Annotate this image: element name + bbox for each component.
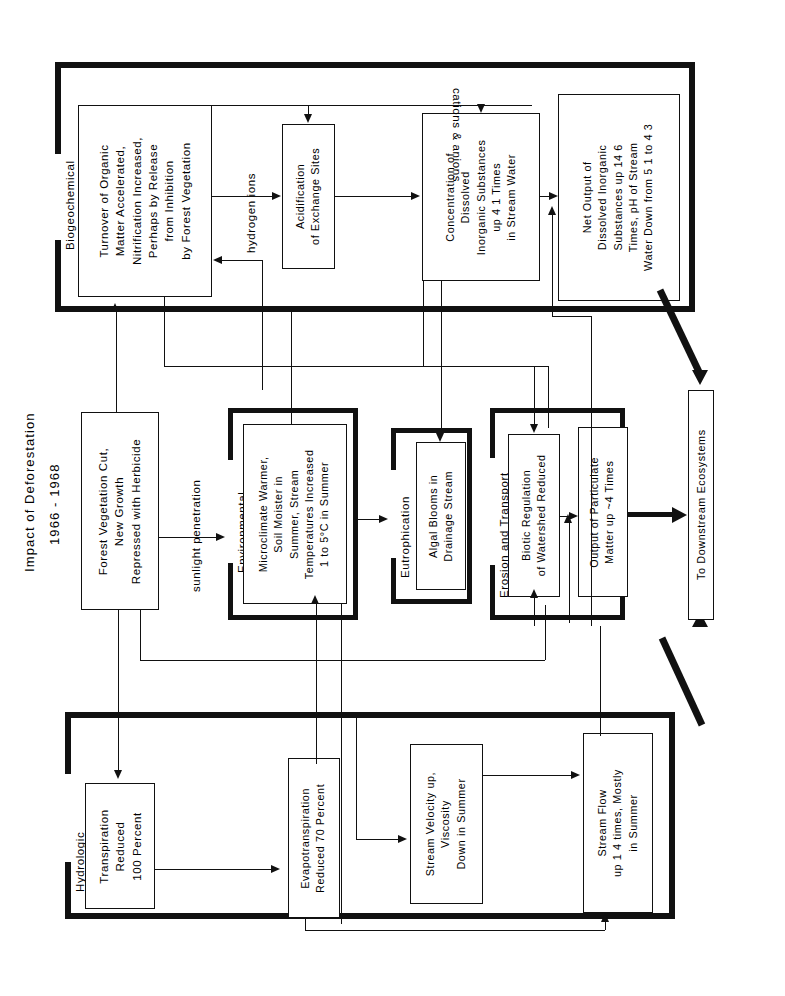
band-eutrophication-edge-left-upper <box>391 428 396 470</box>
box-transpiration: Transpiration Reduced 100 Percent <box>85 783 155 909</box>
arrow-lower-bus-to-biotic <box>530 424 538 433</box>
line-through-microclimate-right <box>341 604 342 924</box>
box-algal-blooms: Algal Blooms in Drainage Stream <box>416 442 466 590</box>
band-hydrologic-edge-top <box>65 712 675 718</box>
line-into-microclimate-left <box>316 604 317 764</box>
arrow-hydrogen-ions <box>272 192 281 200</box>
line-evapo-loop <box>305 930 605 931</box>
band-eutrophication-edge-top <box>391 428 472 433</box>
band-environmental-edge-right <box>353 408 358 620</box>
edge-label-sunlight-penetration: sunlight penetration <box>190 480 202 592</box>
band-eutrophication-edge-right <box>467 428 472 604</box>
band-eutrophication-edge-left-lower <box>391 558 396 604</box>
line-lower-bus-to-biotic <box>534 366 535 424</box>
band-biogeochemical-edge-left-upper <box>55 62 61 154</box>
band-hydrologic-edge-bottom <box>65 913 675 919</box>
box-output-particulate: Output of Particulate Matter up ~4 Times <box>578 427 628 597</box>
box-evapotranspiration: Evapotranspiration Reduced 70 Percent <box>288 758 340 918</box>
line-sunlight-penetration <box>159 537 216 538</box>
band-hydrologic-edge-left-upper <box>65 712 71 774</box>
line-forest-to-transpiration <box>118 610 119 770</box>
arrow-upriser-to-particulate <box>564 514 572 523</box>
line-forest-second-bus <box>140 660 545 661</box>
band-hydrologic-edge-left-lower <box>65 862 71 919</box>
box-biotic-regulation-text: Biotic Regulation of Watershed Reduced <box>509 435 559 596</box>
band-label-biogeochemical: Biogeochemical <box>64 160 76 250</box>
diagram-canvas: Impact of Deforestation 1966 - 1968 Biog… <box>0 0 785 996</box>
box-acidification: Acidification of Exchange Sites <box>282 124 335 269</box>
arrow-particulate-to-downstream <box>672 507 687 523</box>
line-hydrogen-ions <box>212 196 272 197</box>
band-biogeochemical-edge-bottom <box>55 306 695 312</box>
arrow-forest-to-turnover <box>111 303 119 312</box>
line-riser-to-net-output-elbow <box>552 316 591 317</box>
line-stream-flow-riser <box>600 626 601 736</box>
line-lower-bus-right-drop <box>548 366 549 428</box>
arrow-stream-velocity-to-stream-flow <box>571 771 580 779</box>
arrow-evapo-loop-to-stream-flow <box>601 913 609 922</box>
line-environmental-to-eutrophication <box>358 519 379 520</box>
line-feedback-into-turnover <box>222 260 262 261</box>
box-stream-velocity-text: Stream Velocity up, Viscosity Down in Su… <box>411 745 482 903</box>
box-acidification-text: Acidification of Exchange Sites <box>283 125 334 268</box>
box-microclimate-text: Microclimate Warmer, Soil Moister in Sum… <box>244 425 346 603</box>
line-microclimate-up <box>291 312 292 424</box>
band-environmental-edge-top <box>228 408 358 413</box>
arrow-feedback-into-turnover <box>213 256 222 264</box>
line-concentration-left-drop <box>423 281 424 366</box>
box-turnover-text: Turnover of Organic Matter Accelerated, … <box>79 106 211 296</box>
thick-connector-hydrologic-to-downstream <box>660 620 785 760</box>
line-feedback-turnover-riser <box>262 260 263 390</box>
band-biogeochemical-edge-left-lower <box>55 240 61 312</box>
box-forest-vegetation-cut: Forest Vegetation Cut, New Growth Repres… <box>81 412 159 610</box>
band-erosion-edge-left-upper <box>490 408 495 458</box>
line-forest-second-bus-riser <box>545 605 546 660</box>
arrow-acidification-to-concentration <box>411 192 420 200</box>
arrow-concentration-to-algal <box>436 433 444 442</box>
band-eutrophication-edge-bottom <box>391 599 472 604</box>
arrow-into-microclimate-left <box>311 595 319 604</box>
line-acidification-to-concentration <box>335 196 411 197</box>
line-concentration-to-net-output <box>540 196 549 197</box>
thick-connector-biogeochemical-to-downstream <box>660 290 785 410</box>
line-stream-velocity-to-stream-flow <box>483 775 571 776</box>
figure-title-line2: 1966 - 1968 <box>47 464 62 546</box>
box-concentration-text: Concentration of Dissolved Inorganic Sub… <box>423 114 539 280</box>
box-stream-flow: Stream Flow up 1 4 times, Mostly in Summ… <box>583 733 653 913</box>
box-stream-flow-text: Stream Flow up 1 4 times, Mostly in Summ… <box>584 734 652 912</box>
band-erosion-edge-top <box>490 408 625 413</box>
line-transpiration-to-evapotranspiration <box>155 869 271 870</box>
band-biogeochemical-edge-top <box>55 62 695 68</box>
box-turnover: Turnover of Organic Matter Accelerated, … <box>78 105 212 297</box>
band-biogeochemical-edge-right <box>689 62 695 312</box>
box-to-downstream-ecosystems: To Downstream Ecosystems <box>688 390 714 620</box>
line-lower-bus-left-riser <box>164 312 165 366</box>
figure-title-line1: Impact of Deforestation <box>22 412 37 572</box>
line-evapo-loop-riser <box>605 922 606 930</box>
box-net-output: Net Output of Dissolved Inorganic Substa… <box>558 94 680 301</box>
box-biotic-regulation: Biotic Regulation of Watershed Reduced <box>508 434 560 597</box>
arrow-riser-to-net-output <box>548 206 556 215</box>
line-into-biotic <box>534 598 535 626</box>
box-algal-blooms-text: Algal Blooms in Drainage Stream <box>417 443 465 589</box>
band-environmental-edge-left-lower <box>228 563 233 620</box>
line-riser-to-net-output <box>552 215 553 316</box>
arrow-bus-to-concentration <box>477 104 485 113</box>
line-elbow-riser-to-stream-velocity <box>356 715 357 839</box>
line-forest-to-turnover <box>116 312 117 412</box>
box-microclimate: Microclimate Warmer, Soil Moister in Sum… <box>243 424 347 604</box>
edge-label-hydrogen-ions: hydrogen ions <box>245 173 257 253</box>
arrow-bus-to-acidification <box>304 114 312 123</box>
arrow-forest-to-transpiration <box>114 770 122 779</box>
box-transpiration-text: Transpiration Reduced 100 Percent <box>86 784 154 908</box>
box-concentration: Concentration of Dissolved Inorganic Sub… <box>422 113 540 281</box>
box-evapotranspiration-text: Evapotranspiration Reduced 70 Percent <box>289 759 339 917</box>
line-riser-net-output-long <box>591 316 592 626</box>
band-erosion-edge-bottom <box>490 615 625 620</box>
box-stream-velocity: Stream Velocity up, Viscosity Down in Su… <box>410 744 483 904</box>
line-elbow-to-stream-velocity <box>356 839 398 840</box>
arrow-sunlight-penetration <box>216 533 225 541</box>
band-label-eutrophication: Eutrophication <box>399 496 411 578</box>
arrow-environmental-to-eutrophication <box>379 515 388 523</box>
line-evapo-down <box>305 918 306 930</box>
